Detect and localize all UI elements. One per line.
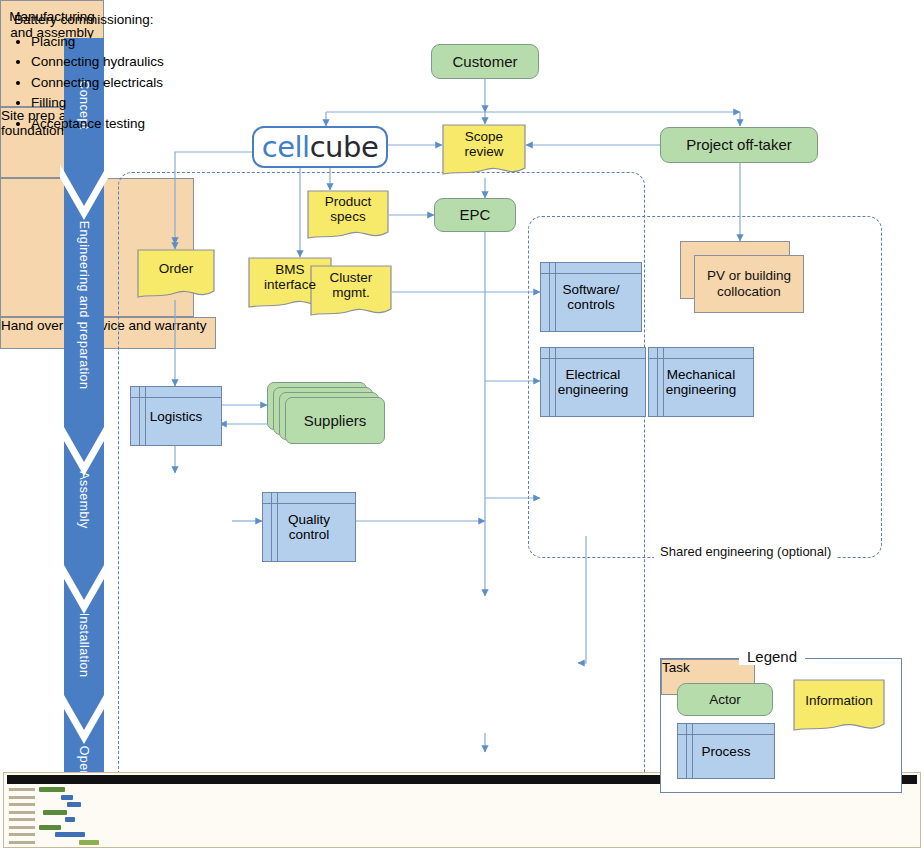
list-item: Filling: [31, 93, 916, 114]
list-item: Connecting hydraulics: [31, 52, 916, 73]
node-quality-control-label: Qualitycontrol: [263, 512, 355, 542]
diagram-canvas: Concept Engineering and preparation Asse…: [0, 0, 924, 851]
scope-review-line1: Scope: [465, 129, 503, 144]
legend-title: Legend: [739, 648, 805, 665]
node-mechanical-engineering-label: Mechanicalengineering: [649, 367, 753, 397]
node-logistics-label: Logistics: [131, 409, 221, 424]
legend-label-information: Information: [793, 679, 885, 721]
legend-label-task: Task: [662, 660, 690, 675]
bms-line2: interface: [264, 277, 316, 292]
cluster-line1: Cluster: [330, 270, 373, 285]
quality-line2: control: [289, 527, 330, 542]
bms-line1: BMS: [275, 262, 304, 277]
node-cluster-mgmt-label: Clustermgmt.: [310, 265, 392, 305]
electrical-line2: engineering: [558, 382, 629, 397]
cluster-line2: mgmt.: [332, 285, 370, 300]
product-specs-line2: specs: [330, 209, 365, 224]
node-software-controls-label: Software/controls: [541, 282, 641, 312]
node-electrical-engineering-label: Electricalengineering: [541, 367, 645, 397]
list-item: Connecting electricals: [31, 73, 916, 94]
legend-label-actor: Actor: [709, 692, 741, 708]
legend-label-process: Process: [678, 744, 774, 759]
node-battery-commissioning[interactable]: Battery commissioning: Placing Connectin…: [0, 178, 194, 317]
battery-commissioning-heading: Battery commissioning:: [14, 10, 916, 31]
legend-swatch-actor: Actor: [677, 683, 773, 716]
process-rail-top-icon: [678, 734, 774, 735]
node-scope-review-label: Scopereview: [442, 124, 526, 164]
node-product-specs-label: Productspecs: [307, 190, 389, 228]
legend-swatch-information: Information: [793, 679, 885, 735]
mechanical-line2: engineering: [666, 382, 737, 397]
electrical-line1: Electrical: [566, 367, 621, 382]
legend-swatch-process: Process: [677, 723, 775, 779]
node-order-label: Order: [137, 249, 215, 287]
quality-line1: Quality: [288, 512, 330, 527]
scope-review-line2: review: [464, 144, 503, 159]
legend: Legend Actor Information Process Task: [660, 658, 902, 793]
product-specs-line1: Product: [325, 194, 372, 209]
mechanical-line1: Mechanical: [667, 367, 735, 382]
list-item: Placing: [31, 32, 916, 53]
software-line2: controls: [567, 297, 614, 312]
battery-commissioning-list: Placing Connecting hydraulics Connecting…: [14, 32, 916, 135]
software-line1: Software/: [562, 282, 619, 297]
